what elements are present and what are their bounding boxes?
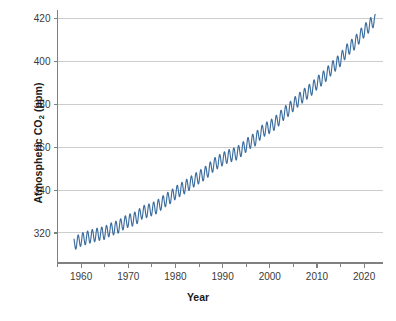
chart-plot-area: 3203403603804004201960197019801990200020… (0, 0, 396, 321)
y-axis-title-unit: (ppm) (32, 82, 44, 115)
x-axis-tick-label: 1970 (117, 271, 140, 282)
x-axis-tick-label: 1960 (70, 271, 93, 282)
y-axis-tick-label: 320 (34, 228, 51, 239)
co2-data-line (74, 14, 375, 249)
x-axis-tick-label: 1990 (211, 271, 234, 282)
y-axis-title-subscript: 2 (37, 115, 46, 119)
x-axis-tick-label: 1980 (164, 271, 187, 282)
y-axis-title-text: Atmospheric CO (32, 119, 44, 203)
y-axis-tick-label: 420 (34, 13, 51, 24)
x-axis-tick-label: 2010 (306, 271, 329, 282)
co2-chart-figure: Atmospheric CO2 concentration (Keeling C… (0, 0, 396, 321)
x-axis-tick-label: 2000 (259, 271, 282, 282)
y-axis-title: Atmospheric CO2 (ppm) (32, 58, 44, 228)
x-axis-tick-label: 2020 (353, 271, 376, 282)
x-axis-title: Year (0, 291, 396, 303)
